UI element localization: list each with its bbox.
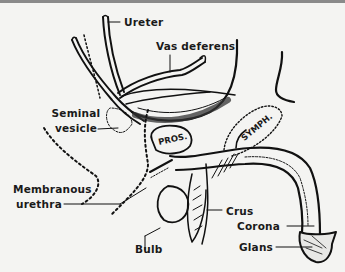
label-vas-deferens: Vas deferens — [156, 40, 235, 52]
label-crus: Crus — [226, 205, 253, 217]
vas-deferens-shape — [118, 55, 205, 98]
label-bulb: Bulb — [135, 243, 162, 255]
label-seminal-vesicle-1: Seminal — [50, 107, 102, 119]
label-membranous-urethra-2: urethra — [16, 198, 62, 210]
label-seminal-vesicle-2: vesicle — [52, 122, 100, 134]
label-membranous-urethra-1: Membranous — [13, 183, 92, 195]
label-ureter: Ureter — [124, 16, 163, 28]
label-corona: Corona — [237, 220, 280, 232]
label-glans: Glans — [239, 241, 273, 253]
